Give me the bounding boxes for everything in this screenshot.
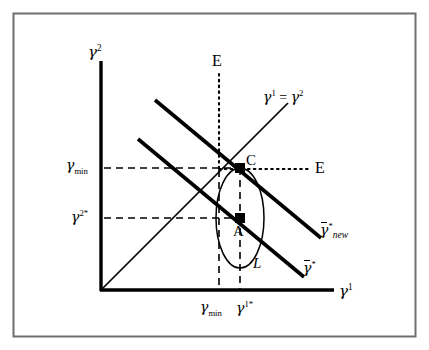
label-E-vertical: E [212, 53, 222, 69]
x-tick-gamma-min-subscript: min [208, 308, 222, 318]
label-budget-line-new: γ*new [320, 222, 348, 241]
x-tick-gamma-1-star-exponent: 1* [244, 299, 253, 309]
y-tick-label-gamma-min: γmin [66, 158, 88, 175]
y-tick-gamma-min-subscript: min [74, 166, 88, 176]
figure-canvas: γ2 γ1 γmin γ2* γmin γ1* E E C A L γ1 = γ… [0, 0, 429, 350]
point-marker-C [235, 163, 245, 173]
label-curve-L: L [253, 256, 261, 271]
label-E-horizontal: E [315, 160, 325, 176]
y-axis-label-exponent: 2 [97, 43, 102, 53]
y-axis-label-gamma: γ [88, 43, 97, 61]
x-tick-label-gamma-min: γmin [200, 300, 222, 317]
line45-gamma2: γ [291, 89, 299, 105]
line45-sup2: 2 [299, 88, 303, 98]
x-tick-label-gamma-1-star: γ1* [236, 300, 253, 316]
gamma-bar-new-subscript: new [333, 230, 348, 240]
gamma-bar-base: γ [303, 261, 311, 275]
x-axis-label: γ1 [339, 283, 353, 299]
x-axis-label-exponent: 1 [348, 282, 353, 292]
x-axis-label-gamma: γ [339, 282, 348, 300]
label-budget-line-original: γ* [303, 260, 316, 276]
label-forty-five-degree-line: γ1 = γ2 [263, 89, 303, 105]
point-marker-A [235, 213, 245, 223]
line45-equals: = [276, 90, 291, 105]
label-point-A: A [233, 224, 244, 239]
gamma-bar-new-base: γ [320, 223, 328, 237]
y-tick-label-gamma-2-star: γ2* [71, 209, 88, 225]
y-tick-gamma-2-star-exponent: 2* [79, 208, 88, 218]
gamma-bar-star: * [311, 259, 315, 269]
label-point-C: C [246, 153, 256, 168]
y-axis-label: γ2 [88, 44, 102, 60]
